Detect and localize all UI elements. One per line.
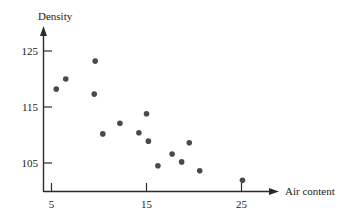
x-tick-label-5: 5: [49, 198, 55, 210]
data-point: [146, 138, 152, 144]
scatter-plot-figure: 125 115 105 5 15 25 Density Air content: [0, 0, 344, 220]
x-axis-arrow-icon: [269, 188, 279, 195]
data-point: [63, 76, 69, 82]
data-point: [91, 91, 97, 97]
data-point: [155, 163, 161, 169]
data-point: [144, 111, 150, 117]
y-tick-label-115: 115: [22, 101, 39, 113]
y-tick-label-105: 105: [22, 157, 39, 169]
data-point: [136, 130, 142, 136]
x-tick-label-25: 25: [236, 198, 248, 210]
data-points-group: [53, 58, 245, 183]
data-point: [92, 58, 98, 64]
data-point: [240, 178, 246, 184]
x-axis-title: Air content: [285, 185, 335, 197]
data-point: [186, 140, 192, 146]
data-point: [197, 168, 203, 174]
data-point: [169, 151, 175, 157]
data-point: [179, 159, 185, 165]
y-tick-label-125: 125: [22, 45, 39, 57]
data-point: [53, 86, 59, 92]
y-axis-title: Density: [38, 10, 73, 22]
y-axis-arrow-icon: [40, 26, 47, 36]
x-tick-label-15: 15: [141, 198, 153, 210]
scatter-plot-canvas: 125 115 105 5 15 25 Density Air content: [0, 0, 344, 220]
data-point: [100, 131, 106, 137]
data-point: [117, 120, 123, 126]
